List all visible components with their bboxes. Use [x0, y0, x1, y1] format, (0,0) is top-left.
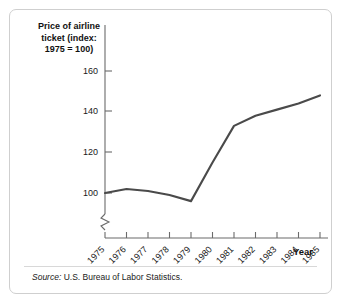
y-axis: 160 140 120 100 [83, 25, 112, 230]
x-tick-label-1977: 1977 [128, 244, 149, 265]
figure-frame: Price of airline ticket (index: 1975 = 1… [9, 9, 332, 294]
y-tick-label-160: 160 [83, 66, 98, 76]
y-tick-label-140: 140 [83, 106, 98, 116]
y-axis-break-icon [101, 214, 109, 230]
source-note: Source: U.S. Bureau of Labor Statistics. [32, 272, 182, 282]
x-tick-label-1975: 1975 [85, 244, 106, 265]
y-tick-label-100: 100 [83, 188, 98, 198]
data-series-line [105, 95, 320, 201]
x-tick-label-1976: 1976 [107, 244, 128, 265]
x-tick-label-1983: 1983 [257, 244, 278, 265]
source-text: U.S. Bureau of Labor Statistics. [61, 272, 182, 282]
x-tick-label-1981: 1981 [214, 244, 235, 265]
x-tick-label-1982: 1982 [236, 244, 257, 265]
x-axis: 1975 1976 1977 1978 1979 1980 1981 1982 … [85, 232, 328, 266]
x-tick-label-1978: 1978 [150, 244, 171, 265]
x-tick-label-1979: 1979 [171, 244, 192, 265]
x-axis-title: Year [293, 246, 313, 257]
footer-divider [24, 266, 317, 267]
x-tick-label-1980: 1980 [193, 244, 214, 265]
y-tick-label-120: 120 [83, 147, 98, 157]
source-label: Source: [32, 272, 61, 282]
line-chart-plot: 160 140 120 100 1975 1976 1977 1978 1979… [10, 10, 333, 295]
